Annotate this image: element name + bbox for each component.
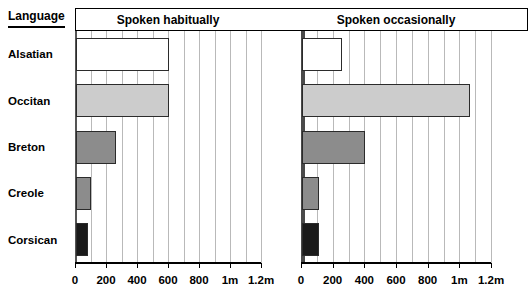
gridline: [261, 31, 262, 263]
gridline: [230, 31, 231, 263]
category-label-breton: Breton: [8, 140, 45, 154]
category-label-corsican: Corsican: [8, 233, 57, 247]
bar-creole-occasional: [302, 177, 319, 210]
tick-mark: [261, 263, 262, 268]
gridline: [246, 31, 247, 263]
gridline: [199, 31, 200, 263]
tick-label: 400: [127, 272, 146, 288]
language-speakers-chart: Language Spoken habitually Spoken occasi…: [0, 0, 529, 297]
tick-label: 600: [386, 272, 405, 288]
gridline: [491, 31, 492, 263]
bar-breton-habitual: [76, 131, 116, 164]
bar-occitan-occasional: [302, 84, 470, 117]
gridline: [412, 31, 413, 263]
tick-mark: [491, 263, 492, 268]
gridline: [215, 31, 216, 263]
gridline: [475, 31, 476, 263]
tick-label: 600: [158, 272, 177, 288]
bar-occitan-habitual: [76, 84, 169, 117]
x-axis-ticks-habitually: 02004006008001m1.2m: [75, 272, 261, 288]
category-label-creole: Creole: [8, 186, 44, 200]
tick-label: 800: [418, 272, 437, 288]
x-axis-ticks-occasionally: 02004006008001m1.2m: [301, 272, 491, 288]
plot-panel-occasionally: [301, 31, 491, 263]
tick-label: 1.2m: [248, 272, 274, 288]
bar-corsican-occasional: [302, 223, 319, 256]
panel-title-habitually: Spoken habitually: [75, 9, 261, 32]
tick-label: 200: [323, 272, 342, 288]
gridline: [380, 31, 381, 263]
tick-label: 1m: [222, 272, 239, 288]
tick-label: 200: [96, 272, 115, 288]
tick-label: 0: [72, 272, 78, 288]
axis-base-line: [301, 263, 491, 264]
tick-label: 1m: [451, 272, 468, 288]
axis-base-line: [75, 263, 261, 264]
bar-alsatian-habitual: [76, 38, 169, 71]
row-header-label: Language: [8, 9, 65, 28]
gridline: [444, 31, 445, 263]
bar-corsican-habitual: [76, 223, 88, 256]
gridline: [428, 31, 429, 263]
tick-label: 1.2m: [478, 272, 504, 288]
category-label-occitan: Occitan: [8, 94, 50, 108]
tick-label: 0: [298, 272, 304, 288]
gridline: [184, 31, 185, 263]
bar-creole-habitual: [76, 177, 91, 210]
bar-alsatian-occasional: [302, 38, 342, 71]
category-label-alsatian: Alsatian: [8, 47, 53, 61]
tick-label: 800: [189, 272, 208, 288]
bar-breton-occasional: [302, 131, 365, 164]
panel-title-occasionally: Spoken occasionally: [301, 9, 491, 32]
gridline: [459, 31, 460, 263]
gridline: [396, 31, 397, 263]
plot-panel-habitually: [75, 31, 261, 263]
tick-label: 400: [355, 272, 374, 288]
